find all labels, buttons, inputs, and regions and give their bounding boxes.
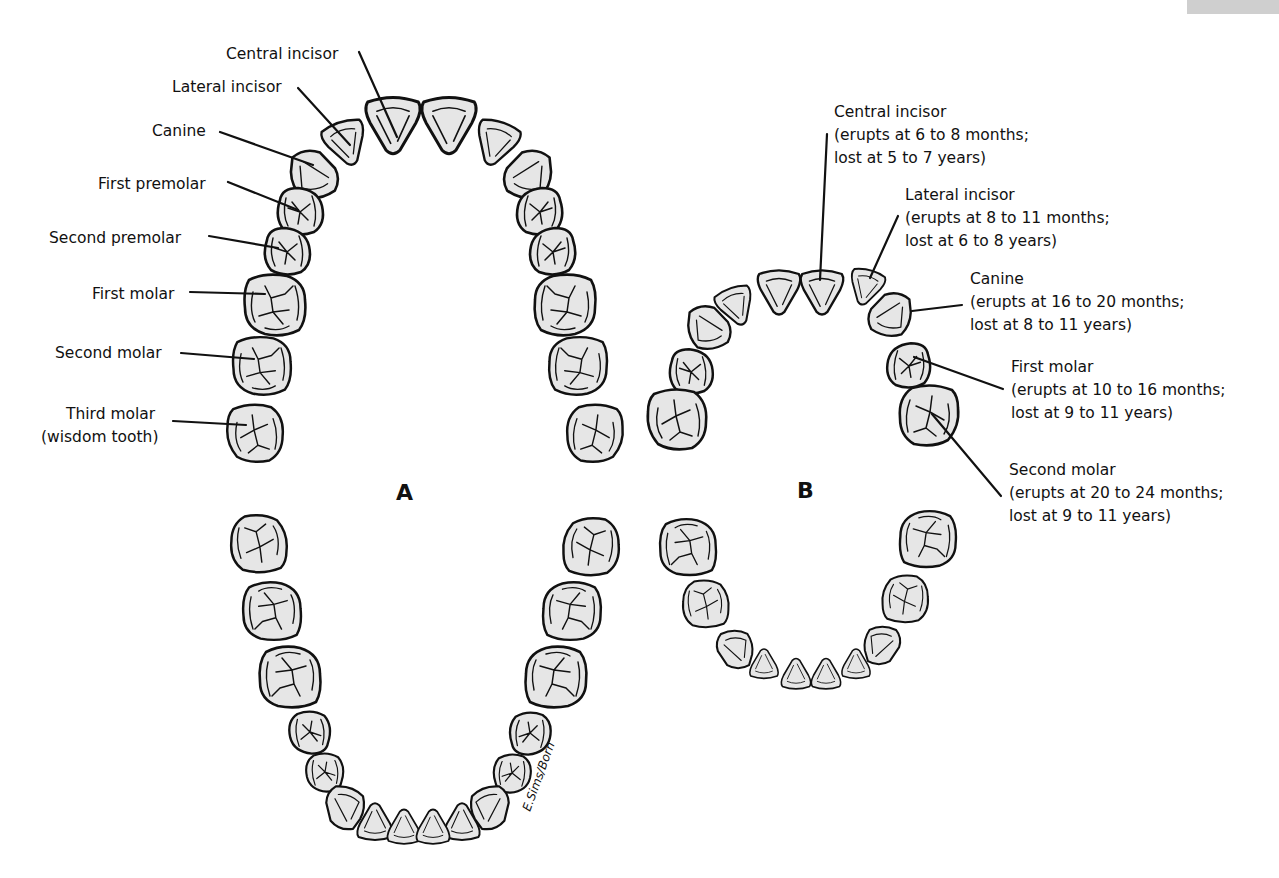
a-lower-central-incisor-left (387, 810, 420, 844)
a-upper-first-molar-right (535, 275, 596, 336)
label-b-first-molar-lost: lost at 9 to 11 years) (1011, 404, 1173, 422)
b-lower-central-incisor-right (811, 659, 840, 689)
panel-a-label: A (396, 480, 413, 505)
label-b-central-incisor-erupts: (erupts at 6 to 8 months; (834, 126, 1029, 144)
b-lower-canine-right (865, 627, 901, 664)
a-upper-second-premolar-left (265, 228, 310, 275)
label-a-third-molar-note: (wisdom tooth) (41, 428, 158, 446)
label-a-second-premolar: Second premolar (49, 229, 182, 247)
b-upper-central-incisor-right (801, 270, 843, 314)
label-b-lateral-incisor-erupts: (erupts at 8 to 11 months; (905, 209, 1110, 227)
a-upper-second-molar-left (233, 337, 291, 395)
a-lower-second-molar-left (243, 582, 301, 640)
label-b-central-incisor: Central incisor (erupts at 6 to 8 months… (834, 103, 1029, 167)
b-lower-first-molar-left (683, 581, 729, 628)
panel-a-lower-arch (231, 515, 619, 844)
label-b-central-incisor-name: Central incisor (834, 103, 947, 121)
label-b-first-molar: First molar (erupts at 10 to 16 months; … (1011, 358, 1226, 422)
a-lower-first-molar-left (260, 647, 321, 708)
label-a-first-premolar: First premolar (98, 175, 206, 193)
label-b-lateral-incisor-name: Lateral incisor (905, 186, 1015, 204)
panel-b-label: B (797, 478, 814, 503)
label-b-second-molar: Second molar (erupts at 20 to 24 months;… (1009, 461, 1224, 525)
panel-a-upper-arch (227, 97, 623, 461)
a-lower-second-molar-right (543, 582, 601, 640)
a-upper-second-premolar-right (530, 228, 575, 275)
label-b-canine-erupts: (erupts at 16 to 20 months; (970, 293, 1185, 311)
label-b-canine-name: Canine (970, 270, 1024, 288)
b-lower-second-molar-left (660, 519, 716, 575)
b-lower-second-molar-right (900, 511, 956, 567)
label-b-canine: Canine (erupts at 16 to 20 months; lost … (970, 270, 1185, 334)
a-upper-third-molar-right (567, 405, 623, 462)
label-a-first-molar: First molar (92, 285, 175, 303)
label-a-canine: Canine (152, 122, 206, 140)
a-lower-third-molar-right (563, 518, 619, 575)
label-a-second-molar: Second molar (55, 344, 162, 362)
label-b-lateral-incisor: Lateral incisor (erupts at 8 to 11 month… (905, 186, 1110, 250)
label-b-second-molar-erupts: (erupts at 20 to 24 months; (1009, 484, 1224, 502)
label-b-first-molar-erupts: (erupts at 10 to 16 months; (1011, 381, 1226, 399)
label-a-third-molar: Third molar (65, 405, 156, 423)
a-lower-third-molar-left (231, 515, 287, 572)
a-upper-second-molar-right (549, 337, 607, 395)
b-upper-central-incisor-left (758, 270, 800, 314)
a-lower-first-molar-right (526, 647, 587, 708)
b-lower-first-molar-right (882, 576, 928, 623)
label-a-lateral-incisor: Lateral incisor (172, 78, 282, 96)
b-lower-lateral-incisor-left (750, 649, 778, 678)
label-a-central-incisor: Central incisor (226, 45, 339, 63)
label-b-canine-lost: lost at 8 to 11 years) (970, 316, 1132, 334)
a-lower-central-incisor-right (416, 810, 449, 844)
label-b-second-molar-name: Second molar (1009, 461, 1116, 479)
b-upper-first-molar-left (670, 349, 713, 393)
panel-b-upper-arch (648, 266, 959, 449)
a-upper-third-molar-left (227, 405, 283, 462)
a-upper-central-incisor-right (422, 97, 476, 153)
b-upper-second-molar-left (648, 389, 707, 449)
a-lower-second-premolar-left (289, 712, 330, 754)
label-b-first-molar-name: First molar (1011, 358, 1094, 376)
b-lower-canine-left (717, 631, 753, 668)
panel-b-lower-arch (660, 511, 956, 689)
label-b-lateral-incisor-lost: lost at 6 to 8 years) (905, 232, 1057, 250)
label-b-central-incisor-lost: lost at 5 to 7 years) (834, 149, 986, 167)
dental-arch-diagram: A B E.Sims/Born Central incisor Lateral … (0, 0, 1279, 878)
b-lower-central-incisor-left (781, 659, 810, 689)
a-upper-first-molar-left (245, 275, 306, 336)
label-b-second-molar-lost: lost at 9 to 11 years) (1009, 507, 1171, 525)
b-upper-first-molar-right (887, 343, 930, 387)
